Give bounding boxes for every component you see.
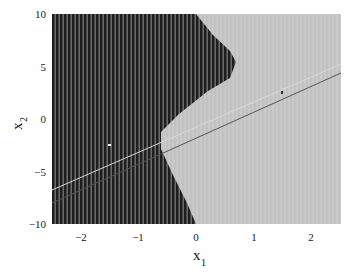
x-tick-2: 2 <box>308 231 314 243</box>
svg-text:2: 2 <box>18 117 29 122</box>
svg-text:1: 1 <box>201 257 206 268</box>
y-axis-label: x 2 <box>9 117 29 130</box>
y-tick-neg5: −5 <box>34 166 46 178</box>
plot-area <box>52 14 341 224</box>
x-tick-neg2: −2 <box>75 231 87 243</box>
point-dark <box>281 91 283 94</box>
x-axis: −2 −1 0 1 2 x 1 <box>75 231 314 268</box>
x-tick-1: 1 <box>251 231 257 243</box>
y-tick-0: 0 <box>41 113 47 125</box>
y-tick-neg10: −10 <box>29 218 47 230</box>
y-tick-10: 10 <box>35 8 47 20</box>
svg-text:x: x <box>193 247 201 263</box>
x-tick-neg1: −1 <box>132 231 144 243</box>
chart: 10 5 0 −5 −10 x 2 −2 −1 0 1 2 x 1 <box>0 0 353 277</box>
point-white <box>108 144 111 146</box>
y-tick-5: 5 <box>41 61 47 73</box>
x-axis-label: x 1 <box>193 247 206 268</box>
svg-text:x: x <box>9 122 25 130</box>
y-axis: 10 5 0 −5 −10 x 2 <box>9 8 47 230</box>
x-tick-0: 0 <box>193 231 199 243</box>
